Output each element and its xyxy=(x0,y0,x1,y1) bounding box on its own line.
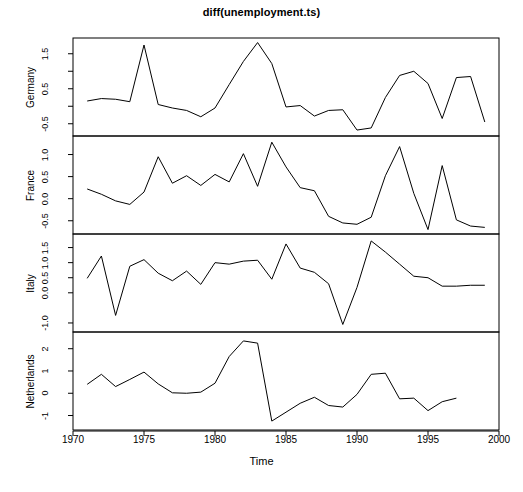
plot-figure: diff(unemployment.ts) Time -0.50.51.5Ger… xyxy=(0,0,523,492)
panel-label-netherlands: Netherlands xyxy=(24,327,37,437)
panel-frame-italy xyxy=(73,234,499,332)
plot-title: diff(unemployment.ts) xyxy=(0,6,523,18)
panel-frame-germany xyxy=(73,38,499,136)
panel-label-germany: Germany xyxy=(24,33,37,143)
y-tick-label: 1.5 xyxy=(39,228,51,268)
x-tick-label: 1990 xyxy=(327,434,387,445)
y-tick-label: 0.5 xyxy=(39,69,51,109)
x-tick-label: 1975 xyxy=(114,434,174,445)
y-tick-label: 1.0 xyxy=(39,135,51,175)
panel-frame-netherlands xyxy=(73,332,499,430)
series-line-germany xyxy=(87,43,485,131)
series-line-italy xyxy=(87,241,485,325)
panel-frame-france xyxy=(73,136,499,234)
panel-label-france: France xyxy=(24,131,37,241)
x-tick-label: 1970 xyxy=(43,434,103,445)
x-axis-label: Time xyxy=(0,455,523,467)
plot-canvas xyxy=(0,0,523,492)
y-tick-label: 1.5 xyxy=(39,34,51,74)
series-line-netherlands xyxy=(87,341,456,421)
x-tick-label: 2000 xyxy=(469,434,523,445)
x-tick-label: 1985 xyxy=(256,434,316,445)
panel-label-italy: Italy xyxy=(24,229,37,339)
series-line-france xyxy=(87,142,485,229)
x-tick-label: 1995 xyxy=(398,434,458,445)
x-tick-label: 1980 xyxy=(185,434,245,445)
y-tick-label: 2 xyxy=(39,329,51,369)
